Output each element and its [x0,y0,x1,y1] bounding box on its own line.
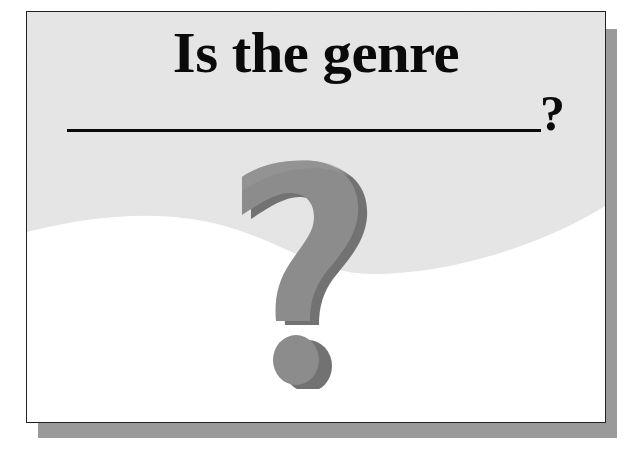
slide-title: Is the genre [26,24,606,81]
question-mark-3d-icon [232,157,382,389]
slide-card: Is the genre ? [26,11,606,423]
fill-in-blank-line [67,129,541,132]
blank-question-mark: ? [540,88,565,138]
